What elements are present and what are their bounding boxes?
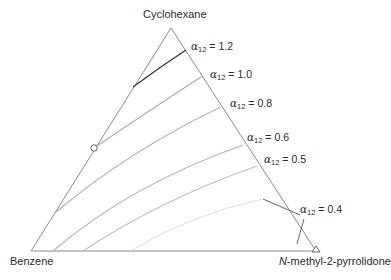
vertex-label-top: Cyclohexane: [143, 8, 207, 20]
alpha-value: = 1.2: [206, 40, 233, 52]
curve-alpha-0-6: [53, 145, 243, 251]
curve-alpha-0-8: [56, 107, 221, 212]
vertex-label-right-suffix: -methyl-2-pyrrolidone: [287, 255, 391, 267]
alpha-value: = 0.5: [279, 153, 306, 165]
curve-alpha-0-4: [130, 199, 262, 251]
curve-alpha-0-5: [83, 166, 257, 251]
alpha-value: = 0.4: [315, 203, 342, 215]
label-alpha-1-0: α12 = 1.0: [210, 68, 252, 82]
label-alpha-0-4: α12 = 0.4: [300, 203, 342, 217]
alpha-value: = 1.0: [225, 68, 252, 80]
vertex-label-left: Benzene: [10, 255, 53, 267]
label-alpha-0-6: α12 = 0.6: [247, 131, 289, 145]
label-alpha-0-5: α12 = 0.5: [264, 153, 306, 167]
label-alpha-1-2: α12 = 1.2: [191, 40, 233, 54]
alpha-value: = 0.8: [245, 97, 272, 109]
curve-alpha-1-0: [94, 77, 201, 148]
vertex-label-right-prefix: N: [279, 255, 287, 267]
vertex-label-right: N-methyl-2-pyrrolidone: [279, 255, 391, 267]
label-alpha-0-8: α12 = 0.8: [230, 97, 272, 111]
circle-marker: [91, 145, 97, 151]
leader-alpha-0-4: [263, 199, 300, 215]
curve-alpha-1-2: [133, 50, 186, 87]
alpha-value: = 0.6: [262, 131, 289, 143]
